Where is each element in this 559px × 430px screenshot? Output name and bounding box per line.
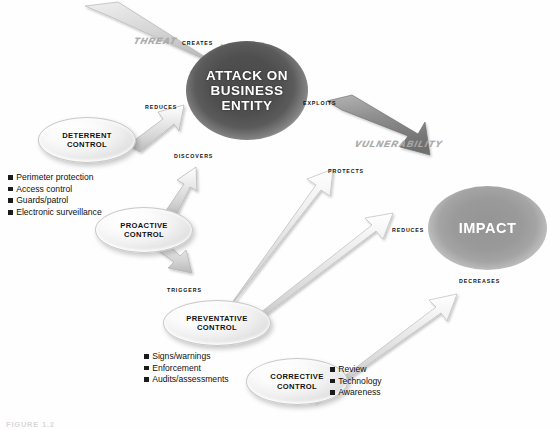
corrective-item-label: Technology	[338, 376, 381, 388]
deterrent-item-label: Guards/patrol	[16, 195, 68, 207]
corrective-item: Review	[330, 364, 382, 376]
relation-discovers: DISCOVERS	[174, 153, 213, 159]
node-proactive-control: PROACTIVE CONTROL	[95, 207, 193, 253]
attack-line-2: BUSINESS	[210, 83, 283, 98]
node-impact: IMPACT	[428, 186, 547, 270]
deterrent-item-label: Perimeter protection	[16, 172, 93, 184]
attack-line-1: ATTACK ON	[206, 68, 288, 83]
bullet-square-icon	[330, 367, 335, 372]
preventative-control-items: Signs/warningsEnforcementAudits/assessme…	[144, 351, 229, 386]
attack-line-3: ENTITY	[221, 98, 272, 113]
bullet-square-icon	[8, 187, 13, 192]
deterrent-line-2: CONTROL	[67, 140, 107, 149]
figure-caption: FIGURE 1.2	[6, 420, 55, 429]
preventative-item: Audits/assessments	[144, 374, 229, 386]
preventative-line-1: PREVENTATIVE	[186, 314, 247, 323]
preventative-item: Enforcement	[144, 363, 229, 375]
preventative-item: Signs/warnings	[144, 351, 229, 363]
reduces-attack-arrow	[128, 105, 184, 152]
node-attack-on-business-entity: ATTACK ON BUSINESS ENTITY	[186, 41, 308, 140]
relation-reduces-attack: REDUCES	[145, 104, 177, 110]
impact-label: IMPACT	[459, 220, 517, 236]
bullet-square-icon	[8, 198, 13, 203]
corrective-item: Technology	[330, 376, 382, 388]
deterrent-item-label: Electronic surveillance	[16, 207, 102, 219]
discovers-arrow	[165, 167, 197, 216]
preventative-line-2: CONTROL	[197, 323, 237, 332]
corrective-item: Awareness	[330, 387, 382, 399]
corrective-item-label: Awareness	[338, 387, 380, 399]
corrective-line-1: CORRECTIVE	[270, 372, 323, 381]
relation-decreases: DECREASES	[459, 278, 500, 284]
relation-reduces-impact: REDUCES	[392, 227, 424, 233]
vulnerability-label: VULNERABILITY	[354, 139, 444, 149]
bullet-square-icon	[144, 366, 149, 371]
deterrent-control-items: Perimeter protectionAccess controlGuards…	[8, 172, 102, 219]
preventative-item-label: Enforcement	[152, 363, 201, 375]
corrective-item-label: Review	[338, 364, 366, 376]
deterrent-item: Guards/patrol	[8, 195, 102, 207]
deterrent-item-label: Access control	[16, 184, 72, 196]
preventative-item-label: Audits/assessments	[152, 374, 228, 386]
proactive-line-1: PROACTIVE	[120, 221, 167, 230]
preventative-item-label: Signs/warnings	[152, 351, 210, 363]
bullet-square-icon	[144, 354, 149, 359]
node-preventative-control: PREVENTATIVE CONTROL	[163, 300, 271, 346]
corrective-line-2: CONTROL	[277, 382, 317, 391]
deterrent-item: Perimeter protection	[8, 172, 102, 184]
relation-exploits: EXPLOITS	[303, 100, 336, 106]
relation-protects: PROTECTS	[328, 168, 364, 174]
bullet-square-icon	[330, 379, 335, 384]
bullet-square-icon	[144, 377, 149, 382]
proactive-line-2: CONTROL	[124, 230, 164, 239]
diagram-canvas: ATTACK (REDUCES) : short thick 3D arrow …	[0, 0, 559, 430]
bullet-square-icon	[330, 390, 335, 395]
threat-label: THREAT	[133, 36, 179, 46]
bullet-square-icon	[8, 210, 13, 215]
corrective-control-items: ReviewTechnologyAwareness	[330, 364, 382, 399]
deterrent-item: Access control	[8, 184, 102, 196]
node-deterrent-control: DETERRENT CONTROL	[38, 117, 136, 163]
deterrent-item: Electronic surveillance	[8, 207, 102, 219]
deterrent-line-1: DETERRENT	[62, 131, 112, 140]
bullet-square-icon	[8, 175, 13, 180]
relation-triggers: TRIGGERS	[167, 287, 202, 293]
relation-creates: CREATES	[182, 40, 213, 46]
